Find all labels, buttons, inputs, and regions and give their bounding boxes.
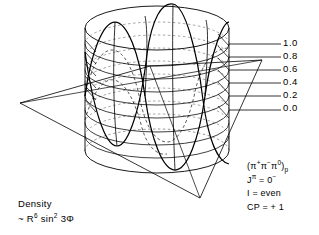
axis-tick-label: 0.6 [283, 62, 319, 75]
formula-angle: 3Φ [58, 213, 74, 224]
axis-tick-label: 0.8 [283, 49, 319, 62]
annotation-final-state: (π+π−π0)p [247, 160, 319, 174]
formula-prefix: ~ R [18, 213, 34, 224]
axis-tick-lines [229, 44, 281, 110]
annotation-isospin: I = even [247, 187, 319, 201]
axis-tick-label: 1.0 [283, 36, 319, 49]
axis-tick-label-group: 1.0 0.8 0.6 0.4 0.2 0.0 [283, 36, 319, 114]
base-plane [20, 60, 262, 198]
annotation-cp: CP = + 1 [247, 201, 319, 215]
density-envelope-front-mirror [55, 96, 85, 170]
quantum-numbers-annotation: (π+π−π0)p Jπ = 0− I = even CP = + 1 [247, 160, 319, 214]
caption-formula: ~ R6 sin2 3Φ [18, 211, 148, 226]
annotation-spin-parity: Jπ = 0− [247, 174, 319, 188]
formula-sin: sin [38, 213, 54, 224]
state-subscript: p [285, 166, 289, 173]
axis-tick-label: 0.0 [283, 101, 319, 114]
density-caption: Density ~ R6 sin2 3Φ [18, 196, 148, 226]
axis-tick-label: 0.4 [283, 75, 319, 88]
axis-tick-label: 0.2 [283, 88, 319, 101]
caption-title: Density [18, 196, 148, 211]
jp-equals: = 0 [256, 175, 272, 185]
density-envelope-back [85, 48, 229, 154]
jp-value-superscript: − [272, 173, 276, 180]
plane-diagonals [20, 60, 262, 198]
